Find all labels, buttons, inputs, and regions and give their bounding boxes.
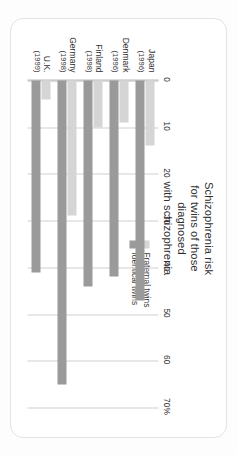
bar-finland-fraternal — [93, 80, 102, 127]
category-year: (1996) — [110, 37, 120, 72]
category-axis-labels: Japan(1996)Denmark(1996)Finland(1998)Ger… — [27, 27, 158, 75]
bar-finland-identical — [83, 80, 92, 286]
x-tick-label-40: 40 — [161, 261, 171, 270]
plot-area: 010203040506070% Japan(1996)Denmark(1996… — [27, 79, 158, 406]
x-tick-label-50: 50 — [161, 308, 171, 317]
bar-chart-figure: Schizophrenia risk for twins of those di… — [17, 26, 220, 430]
x-tick-label-70: 70% — [161, 398, 171, 415]
plot-canvas — [27, 79, 158, 406]
x-tick-label-20: 20 — [161, 168, 171, 177]
bar-germany-fraternal — [67, 80, 76, 215]
category-label-germany: Germany(1998) — [57, 37, 76, 72]
category-label-finland: Finland(1998) — [84, 44, 103, 72]
x-tick-label-30: 30 — [161, 214, 171, 223]
category-label-japan: Japan(1996) — [136, 49, 155, 72]
x-tick-label-0: 0 — [161, 77, 171, 82]
category-year: (1998) — [84, 44, 94, 72]
category-year: (1998) — [57, 37, 67, 72]
bar-germany-identical — [57, 80, 66, 384]
category-name: Finland — [93, 44, 103, 72]
x-tick-label-60: 60 — [161, 355, 171, 364]
chart-title-line-1: Schizophrenia risk — [200, 26, 214, 430]
bar-denmark-identical — [109, 80, 118, 276]
bar-japan-fraternal — [145, 80, 154, 145]
category-name: Japan — [145, 49, 155, 72]
category-name: U.K. — [41, 50, 51, 72]
category-label-uk: U.K.(1999) — [31, 50, 50, 72]
category-name: Denmark — [119, 37, 129, 72]
bar-uk-identical — [31, 80, 40, 272]
rotated-figure-stage: Schizophrenia risk for twins of those di… — [17, 26, 220, 430]
gridline-50 — [27, 314, 158, 315]
x-tick-label-10: 10 — [161, 121, 171, 130]
bar-denmark-fraternal — [119, 80, 128, 122]
bar-japan-identical — [135, 80, 144, 300]
page-root: Schizophrenia risk for twins of those di… — [0, 0, 237, 455]
chart-title-line-2: for twins of those — [187, 26, 201, 430]
bar-uk-fraternal — [41, 80, 50, 99]
category-year: (1999) — [31, 50, 41, 72]
x-axis-tick-labels: 010203040506070% — [159, 79, 171, 406]
chart-title-line-3: diagnosed — [173, 26, 187, 430]
gridline-70 — [27, 407, 158, 408]
chart-card: Schizophrenia risk for twins of those di… — [10, 18, 227, 438]
category-year: (1996) — [136, 49, 146, 72]
category-label-denmark: Denmark(1996) — [110, 37, 129, 72]
category-name: Germany — [67, 37, 77, 72]
gridline-60 — [27, 360, 158, 361]
